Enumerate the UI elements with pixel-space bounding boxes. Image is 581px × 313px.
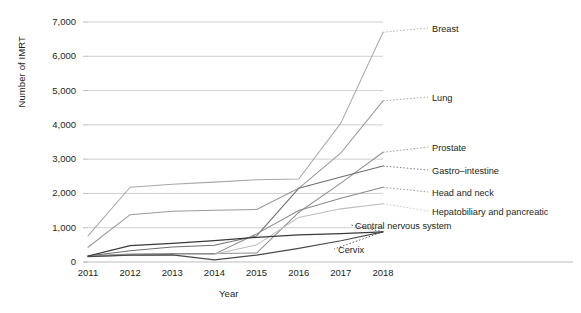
series-lines [88,32,383,260]
x-tick-label: 2013 [154,267,190,278]
y-axis-title: Number of IMRT [16,94,27,108]
figure-caption [8,305,338,313]
leader-lines [334,28,428,249]
x-tick-label: 2011 [70,267,106,278]
series-label-gastro-intestine: Gastro–intestine [432,166,499,176]
y-tick-label: 3,000 [36,153,76,164]
series-label-breast: Breast [432,24,459,34]
y-tick-label: 1,000 [36,222,76,233]
y-tick-label: 2,000 [36,187,76,198]
series-label-prostate: Prostate [432,143,466,153]
series-label-cervix: Cervix [338,245,364,255]
x-tick-label: 2015 [239,267,275,278]
series-label-lung: Lung [432,93,452,103]
y-tick-label: 7,000 [36,16,76,27]
tick-marks [83,22,88,262]
y-tick-label: 0 [36,256,76,267]
chart-figure: Number of IMRT Year 01,0002,0003,0004,00… [0,0,581,313]
x-tick-label: 2016 [281,267,317,278]
series-label-head-and-neck: Head and neck [432,188,494,198]
y-tick-label: 5,000 [36,85,76,96]
series-label-hepatobiliary-and-pancreatic: Hepatobiliary and pancreatic [432,207,548,217]
gridlines [88,22,383,228]
series-label-central-nervous-system: Central nervous system [355,221,452,231]
x-tick-label: 2012 [112,267,148,278]
y-tick-label: 4,000 [36,119,76,130]
x-axis-title: Year [219,288,239,299]
x-tick-label: 2014 [196,267,232,278]
y-tick-label: 6,000 [36,50,76,61]
x-tick-label: 2018 [365,267,401,278]
x-tick-label: 2017 [323,267,359,278]
